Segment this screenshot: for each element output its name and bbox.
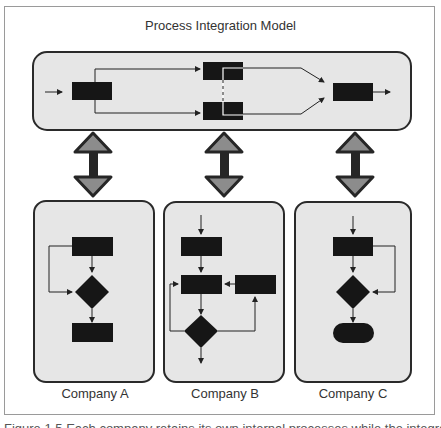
integration-step-1 <box>72 82 112 100</box>
company-a-process <box>72 237 113 256</box>
company-b-process-2 <box>181 275 222 294</box>
company-b-panel <box>164 202 284 382</box>
company-c-panel <box>295 202 411 382</box>
double-arrow-a <box>75 133 111 196</box>
company-b-label: Company B <box>165 386 285 401</box>
company-c-label: Company C <box>293 386 413 401</box>
process-diagram <box>0 0 441 428</box>
integration-panel <box>33 52 411 130</box>
company-a-panel <box>34 201 154 382</box>
company-c-terminator <box>333 323 374 343</box>
company-c-process <box>333 237 373 256</box>
company-b-process-3 <box>235 275 276 294</box>
integration-step-3 <box>333 83 373 101</box>
company-a-output <box>72 323 113 342</box>
figure-caption-cutoff: Figure 1.5 Each company retains its own … <box>4 421 441 428</box>
double-arrow-c <box>337 133 373 196</box>
double-arrow-b <box>206 133 242 196</box>
company-a-label: Company A <box>35 386 155 401</box>
company-b-process-1 <box>181 237 222 256</box>
